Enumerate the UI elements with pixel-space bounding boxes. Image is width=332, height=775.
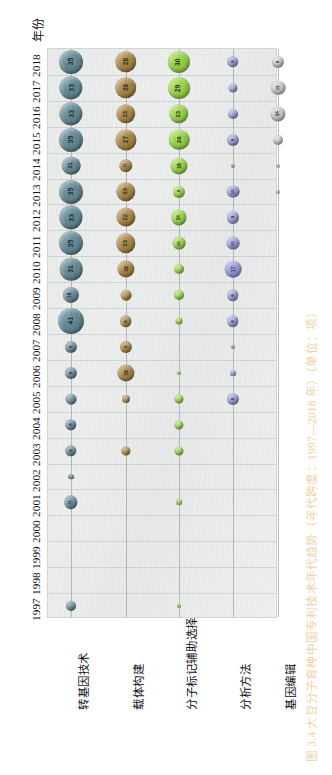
bubble-data-point [174, 394, 183, 403]
category-label: 分子标记辅助选择 [183, 617, 199, 710]
bubble-data-point: 33 [59, 76, 82, 99]
year-tick-label: 2012 [30, 210, 42, 233]
bubble-value-label: 9 [177, 190, 181, 192]
bubble-data-point: 29 [168, 77, 190, 99]
bubble-data-point [230, 370, 236, 376]
bubble-data-point: 22 [116, 208, 135, 227]
bubble-data-point: 26 [169, 129, 190, 150]
gridline-horizontal [48, 489, 276, 490]
bubble-data-point [228, 109, 238, 119]
bubble-data-point: 13 [271, 81, 286, 96]
year-tick-label: 2010 [30, 261, 42, 284]
year-tick-label: 2017 [30, 80, 42, 103]
bubble-data-point [177, 604, 181, 608]
bubble-data-point: 35 [59, 128, 83, 152]
year-tick-label: 1997 [30, 598, 42, 621]
gridline-horizontal [48, 282, 276, 283]
gridline-horizontal [48, 308, 276, 309]
bubble-data-point [228, 83, 237, 92]
gridline-horizontal [48, 101, 276, 102]
bubble-value-label: 18 [123, 370, 128, 376]
bubble-value-label: 8 [69, 423, 73, 425]
bubble-value-label: 35 [67, 136, 74, 144]
gridline-horizontal [48, 412, 276, 413]
bubble-value-label: 18 [176, 163, 181, 169]
bubble-data-point: 9 [173, 185, 185, 197]
bubble-data-point [177, 371, 181, 375]
gridline-horizontal [48, 230, 276, 231]
figure-container: 3533333521353335311641998811282823271123… [0, 0, 332, 775]
year-tick-label: 2005 [30, 391, 42, 414]
bubble-value-label: 9 [69, 372, 73, 374]
bubble-data-point: 16 [63, 287, 79, 303]
year-tick-label: 2015 [30, 132, 42, 155]
bubble-data-point: 9 [65, 341, 77, 353]
bubble-value-label: 23 [123, 111, 129, 117]
gridline-horizontal [48, 567, 276, 568]
bubble-data-point: 8 [120, 315, 131, 326]
category-label: 基因编辑 [282, 664, 298, 710]
bubble-value-label: 11 [124, 163, 128, 168]
bubble-value-label: 31 [68, 265, 75, 273]
gridline-horizontal [48, 127, 276, 128]
bubble-data-point: 23 [169, 104, 188, 123]
bubble-data-point [174, 446, 183, 455]
bubble-data-point: 17 [225, 261, 242, 278]
bubble-data-point: 11 [64, 496, 77, 509]
category-label: 分析方法 [237, 664, 253, 710]
chart-plot-area: 3533333521353335311641998811282823271123… [47, 48, 277, 618]
bubble-value-label: 17 [230, 266, 235, 272]
bubble-value-label: 8 [124, 320, 128, 322]
year-tick-label: 2014 [30, 158, 42, 181]
gridline-horizontal [48, 204, 276, 205]
bubble-data-point [121, 290, 132, 301]
bubble-data-point [174, 290, 184, 300]
bubble-value-label: 9 [231, 398, 235, 400]
bubble-value-label: 11 [69, 500, 73, 505]
gridline-horizontal [48, 515, 276, 516]
bubble-data-point: 28 [115, 51, 136, 72]
bubble-data-point: 33 [59, 206, 82, 229]
bubble-data-point: 28 [115, 77, 136, 98]
bubble-data-point [66, 601, 76, 611]
bubble-data-point [231, 164, 235, 168]
year-tick-label: 2002 [30, 469, 42, 492]
bubble-data-point [176, 500, 182, 506]
bubble-value-label: 33 [68, 84, 75, 92]
bubble-data-point: 31 [60, 258, 83, 281]
bubble-value-label: 30 [176, 58, 183, 65]
year-tick-label: 1998 [30, 572, 42, 595]
bubble-value-label: 10 [177, 241, 181, 246]
bubble-data-point: 14 [171, 210, 186, 225]
gridline-horizontal [48, 464, 276, 465]
bubble-value-label: 21 [68, 162, 74, 168]
bubble-data-point: 23 [116, 182, 135, 201]
bubble-data-point [174, 420, 183, 429]
bubble-data-point: 18 [117, 261, 134, 278]
bubble-value-label: 8 [231, 320, 235, 322]
bubble-data-point: 8 [227, 56, 238, 67]
bubble-value-label: 35 [67, 188, 74, 196]
bubble-value-label: 23 [123, 240, 129, 246]
gridline-horizontal [48, 541, 276, 542]
bubble-data-point [68, 474, 74, 480]
bubble-data-point: 21 [62, 156, 81, 175]
bubble-data-point [276, 164, 280, 168]
bubble-data-point: 35 [59, 231, 83, 255]
bubble-data-point: 9 [227, 134, 239, 146]
bubble-data-point: 33 [59, 102, 82, 125]
bubble-value-label: 35 [67, 239, 74, 247]
bubble-value-label: 33 [68, 214, 75, 222]
bubble-data-point [122, 395, 130, 403]
gridline-horizontal [48, 153, 276, 154]
bubble-data-point [231, 345, 235, 349]
bubble-value-label: 8 [231, 61, 235, 63]
bubble-value-label: 29 [176, 84, 183, 91]
year-tick-label: 2004 [30, 417, 42, 440]
bubble-value-label: 9 [231, 138, 235, 140]
bubble-value-label: 33 [68, 110, 75, 118]
bubble-data-point: 10 [227, 185, 240, 198]
gridline-horizontal [48, 386, 276, 387]
bubble-value-label: 10 [231, 241, 235, 246]
bubble-data-point [273, 135, 283, 145]
